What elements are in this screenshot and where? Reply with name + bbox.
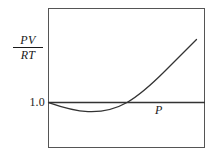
figure-container: PV RT 1.0 P <box>0 0 214 157</box>
plot-frame <box>48 8 205 148</box>
y-axis-label-denominator: RT <box>11 49 45 62</box>
y-tick-label-1-0: 1.0 <box>18 95 45 109</box>
x-axis-label-p: P <box>155 104 162 116</box>
y-axis-label: PV RT <box>11 34 45 61</box>
y-axis-label-numerator: PV <box>11 34 45 47</box>
